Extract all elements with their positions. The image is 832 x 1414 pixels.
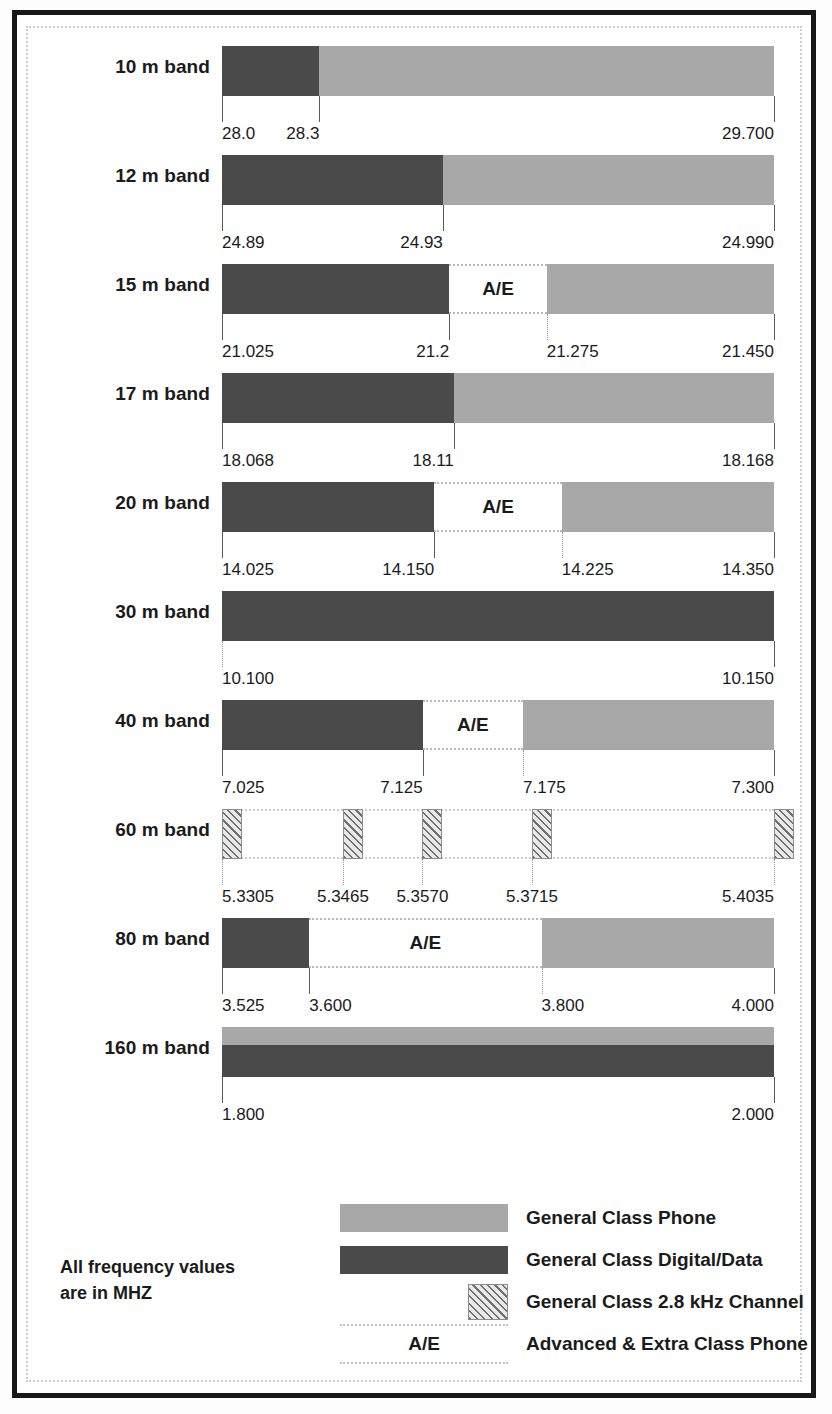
band-track-10m: 28.028.329.700 <box>222 46 774 96</box>
band-label-80m: 80 m band <box>60 928 210 950</box>
band-segment-30m-dark <box>222 591 774 641</box>
band-label-40m: 40 m band <box>60 710 210 732</box>
units-note-line1: All frequency values <box>60 1254 290 1280</box>
band-track-160m: 1.8002.000 <box>222 1027 774 1077</box>
tick-20m-1 <box>434 532 435 558</box>
band-label-17m: 17 m band <box>60 383 210 405</box>
tick-30m-0 <box>222 641 223 667</box>
band-channel-60m-3 <box>532 809 552 859</box>
tick-20m-3 <box>774 532 775 558</box>
band-segment-40m-ae: A/E <box>423 700 523 750</box>
tick-15m-3 <box>774 314 775 340</box>
tick-17m-2 <box>774 423 775 449</box>
tick-40m-3 <box>774 750 775 776</box>
band-row-15m: 15 m bandA/E21.02521.221.27521.450 <box>32 250 796 359</box>
legend-row-general-class-phone: General Class Phone <box>302 1198 774 1238</box>
tick-40m-0 <box>222 750 223 776</box>
tick-60m-0 <box>222 859 223 885</box>
band-row-60m: 60 m band5.33055.34655.35705.37155.4035 <box>32 795 796 904</box>
tick-80m-1 <box>309 968 310 994</box>
tick-20m-2 <box>562 532 563 558</box>
legend-swatch-cell-general-class-phone <box>302 1198 520 1238</box>
legend-swatch-cell-general-class-channel <box>302 1282 520 1322</box>
band-track-20m: A/E14.02514.15014.22514.350 <box>222 482 774 532</box>
band-track-60m: 5.33055.34655.35705.37155.4035 <box>222 809 774 859</box>
band-segment-15m-light <box>547 264 774 314</box>
band-segment-160m-split <box>222 1027 774 1077</box>
band-row-30m: 30 m band10.10010.150 <box>32 577 796 686</box>
tick-12m-1 <box>443 205 444 231</box>
tick-40m-2 <box>523 750 524 776</box>
tick-12m-2 <box>774 205 775 231</box>
band-chart: 10 m band28.028.329.70012 m band24.8924.… <box>32 32 796 1378</box>
tick-60m-1 <box>343 859 344 885</box>
units-note: All frequency values are in MHZ <box>60 1254 290 1306</box>
band-track-12m: 24.8924.9324.990 <box>222 155 774 205</box>
band-plan-page: 10 m band28.028.329.70012 m band24.8924.… <box>0 0 832 1414</box>
tick-10m-1 <box>319 96 320 122</box>
tick-80m-2 <box>542 968 543 994</box>
band-label-10m: 10 m band <box>60 56 210 78</box>
band-segment-17m-light <box>454 373 774 423</box>
band-row-12m: 12 m band24.8924.9324.990 <box>32 141 796 250</box>
legend-row-general-class-digital: General Class Digital/Data <box>302 1240 774 1280</box>
band-segment-20m-light <box>562 482 774 532</box>
legend-label-general-class-phone: General Class Phone <box>520 1207 716 1229</box>
band-track-17m: 18.06818.1118.168 <box>222 373 774 423</box>
legend-swatch-cell-general-class-digital <box>302 1240 520 1280</box>
band-segment-80m-light <box>542 918 774 968</box>
tick-15m-1 <box>449 314 450 340</box>
band-label-160m: 160 m band <box>60 1037 210 1059</box>
legend-label-general-class-digital: General Class Digital/Data <box>520 1249 763 1271</box>
tick-15m-0 <box>222 314 223 340</box>
tick-80m-0 <box>222 968 223 994</box>
band-row-20m: 20 m bandA/E14.02514.15014.22514.350 <box>32 468 796 577</box>
band-track-40m: A/E7.0257.1257.1757.300 <box>222 700 774 750</box>
band-channel-60m-4 <box>774 809 794 859</box>
tick-40m-1 <box>423 750 424 776</box>
tick-17m-1 <box>454 423 455 449</box>
band-segment-17m-dark <box>222 373 454 423</box>
tick-60m-2 <box>422 859 423 885</box>
band-label-12m: 12 m band <box>60 165 210 187</box>
tick-15m-2 <box>547 314 548 340</box>
band-channel-60m-1 <box>343 809 363 859</box>
band-segment-15m-ae: A/E <box>449 264 546 314</box>
band-channel-60m-0 <box>222 809 242 859</box>
tick-label-160m-0: 1.800 <box>222 1105 265 1125</box>
band-label-60m: 60 m band <box>60 819 210 841</box>
legend-swatch-general-class-phone <box>340 1204 508 1232</box>
tick-160m-1 <box>774 1077 775 1103</box>
legend-label-general-class-channel: General Class 2.8 kHz Channel <box>520 1291 804 1313</box>
band-segment-80m-dark <box>222 918 309 968</box>
band-track-80m: A/E3.5253.6003.8004.000 <box>222 918 774 968</box>
band-label-30m: 30 m band <box>60 601 210 623</box>
band-label-20m: 20 m band <box>60 492 210 514</box>
band-row-40m: 40 m bandA/E7.0257.1257.1757.300 <box>32 686 796 795</box>
band-segment-40m-dark <box>222 700 423 750</box>
tick-60m-3 <box>532 859 533 885</box>
band-track-15m: A/E21.02521.221.27521.450 <box>222 264 774 314</box>
legend-row-general-class-channel: General Class 2.8 kHz Channel <box>302 1282 774 1322</box>
tick-60m-4 <box>774 859 775 885</box>
legend-swatch-advanced-extra-phone: A/E <box>340 1324 508 1364</box>
band-channel-60m-2 <box>422 809 442 859</box>
band-segment-20m-dark <box>222 482 434 532</box>
legend: All frequency values are in MHZ General … <box>32 1198 774 1374</box>
tick-17m-0 <box>222 423 223 449</box>
legend-swatch-general-class-digital <box>340 1246 508 1274</box>
band-row-10m: 10 m band28.028.329.700 <box>32 32 796 141</box>
tick-10m-0 <box>222 96 223 122</box>
legend-label-advanced-extra-phone: Advanced & Extra Class Phone <box>520 1333 808 1355</box>
tick-20m-0 <box>222 532 223 558</box>
tick-80m-3 <box>774 968 775 994</box>
band-baseline-60m <box>222 809 774 859</box>
band-row-80m: 80 m bandA/E3.5253.6003.8004.000 <box>32 904 796 1013</box>
band-segment-80m-ae: A/E <box>309 918 541 968</box>
band-row-17m: 17 m band18.06818.1118.168 <box>32 359 796 468</box>
tick-label-160m-1: 2.000 <box>731 1105 774 1125</box>
tick-160m-0 <box>222 1077 223 1103</box>
legend-row-advanced-extra-phone: A/EAdvanced & Extra Class Phone <box>302 1324 774 1364</box>
band-segment-15m-dark <box>222 264 449 314</box>
legend-swatch-general-class-channel <box>468 1284 508 1320</box>
